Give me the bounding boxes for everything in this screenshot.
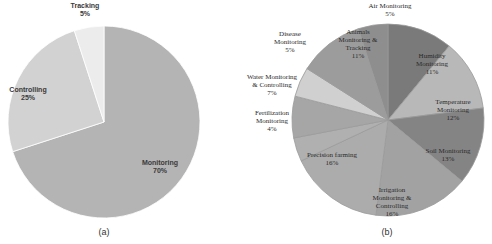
label-air-monitoring: Air Monitoring5% <box>369 2 412 18</box>
label-text: & Controlling <box>252 81 292 89</box>
label-text: Soil Monitoring <box>426 147 471 155</box>
label-disease-monitoring: DiseaseMonitoring5% <box>274 30 306 54</box>
label-text: Controlling <box>376 202 409 210</box>
label-text: Irrigation <box>379 186 406 194</box>
label-value: 16% <box>386 210 399 218</box>
label-value: 13% <box>442 155 455 163</box>
label-value: 11% <box>426 68 439 76</box>
caption-b: (b) <box>382 227 393 237</box>
label-text: Humidity <box>419 52 446 60</box>
label-text: Monitoring <box>256 117 288 125</box>
label-text: Tracking <box>345 44 371 52</box>
label-text: Monitoring <box>416 60 448 68</box>
label-value: 70% <box>153 167 168 174</box>
label-value: 5% <box>80 10 91 17</box>
label-value: 25% <box>21 94 36 101</box>
pie-charts-figure: Monitoring70%Controlling25%Tracking5% Hu… <box>0 0 492 244</box>
label-text: Fertilization <box>255 109 290 117</box>
label-text: Temperature <box>435 98 470 106</box>
label-fertilization-monitoring: FertilizationMonitoring4% <box>255 109 290 133</box>
label-tracking: Tracking5% <box>71 2 100 17</box>
label-value: 5% <box>285 46 295 54</box>
label-text: Monitoring <box>142 159 178 167</box>
label-text: Monitoring <box>437 106 469 114</box>
pie-chart-b: HumidityMonitoring11%TemperatureMonitori… <box>247 2 484 218</box>
label-text: Animals <box>346 28 370 36</box>
label-value: 16% <box>326 159 339 167</box>
label-text: Air Monitoring <box>369 2 412 10</box>
label-text: Monitoring & <box>338 36 378 44</box>
label-water-monitoring-controlling: Water Monitoring& Controlling7% <box>247 73 298 97</box>
label-text: Monitoring & <box>372 194 412 202</box>
label-value: 11% <box>352 52 365 60</box>
label-text: Water Monitoring <box>247 73 298 81</box>
label-text: Monitoring <box>274 38 306 46</box>
label-text: Tracking <box>71 2 100 10</box>
label-text: Disease <box>279 30 301 38</box>
label-text: Controlling <box>9 86 46 94</box>
label-value: 12% <box>447 114 460 122</box>
label-value: 4% <box>267 125 277 133</box>
caption-a: (a) <box>99 227 110 237</box>
label-text: Precision farming <box>307 151 357 159</box>
label-value: 7% <box>267 89 277 97</box>
label-value: 5% <box>385 10 395 18</box>
pie-chart-a: Monitoring70%Controlling25%Tracking5% <box>8 2 200 218</box>
